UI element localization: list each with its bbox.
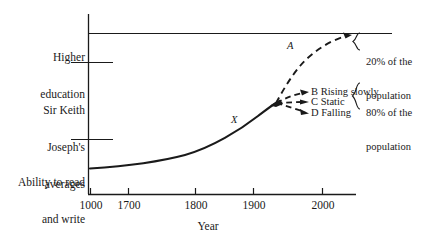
branch-label-d: D Falling — [311, 107, 351, 118]
annotation-branch-a: A — [287, 40, 293, 51]
annotation-point-x: X — [231, 114, 237, 125]
y-label-ability-line2: and write — [0, 213, 85, 225]
branch-arrow-c — [300, 100, 309, 105]
brace-label-top-line1: 20% of the — [366, 56, 412, 67]
y-label-higher-education-line1: Higher — [0, 51, 85, 63]
x-tick-label-2000: 2000 — [298, 199, 348, 211]
branch-label-c: C Static — [311, 96, 345, 107]
main-literacy-curve — [90, 103, 276, 169]
y-label-ability-to-read-and-write: Ability to read and write — [0, 151, 85, 243]
branch-arrow-b — [300, 90, 309, 96]
branch-arrow-d — [300, 109, 309, 115]
brace-label-bottom-line1: 80% of the — [366, 107, 412, 118]
y-label-ability-line1: Ability to read — [0, 176, 85, 188]
chart-figure: Higher education Sir Keith Joseph's aver… — [0, 0, 444, 243]
y-label-sir-keith-line1: Sir Keith — [0, 104, 85, 116]
brace-top — [353, 33, 360, 50]
x-tick-label-1800: 1800 — [171, 199, 221, 211]
brace-label-bottom-line2: population — [366, 141, 412, 152]
x-tick-label-1900: 1900 — [229, 199, 279, 211]
brace-label-bottom: 80% of the population — [366, 84, 412, 175]
x-axis-title: Year — [178, 220, 238, 232]
x-tick-label-1700: 1700 — [104, 199, 154, 211]
